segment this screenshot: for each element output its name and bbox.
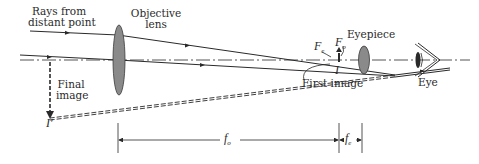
ray-mid-after-objective (118, 60, 395, 76)
rays-label-line2: distant point (28, 17, 90, 28)
telescope-diagram: Rays from distant point Objective lens E… (0, 0, 479, 164)
ray-top-after-objective (118, 35, 395, 75)
fe-subscript: e (321, 47, 324, 55)
fo-dimension-subscript: o (227, 139, 231, 147)
objective-lens (113, 25, 125, 95)
first-image-label: First image (302, 78, 363, 89)
fe-label: Fe (314, 41, 324, 57)
incoming-ray-top (30, 31, 118, 35)
eyepiece-label: Eyepiece (343, 29, 399, 40)
first-image-marker: I (335, 65, 339, 76)
eye-label: Eye (418, 77, 438, 88)
fo-label: Fo (335, 37, 346, 53)
incoming-ray-middle (20, 55, 118, 60)
fe-dimension-label: fe (345, 133, 351, 149)
fo-dimension-label: fo (224, 133, 231, 149)
eyepiece-lens (359, 46, 370, 74)
rays-label: Rays from distant point (28, 6, 90, 28)
final-image-label-line2: image (56, 90, 86, 101)
objective-label: Objective lens (128, 8, 184, 30)
final-image-marker: I′ (46, 118, 53, 129)
final-image-label: Final image (56, 79, 86, 101)
fe-dimension-subscript: e (348, 139, 351, 147)
objective-label-line2: lens (128, 19, 184, 30)
fo-subscript: o (342, 43, 346, 51)
